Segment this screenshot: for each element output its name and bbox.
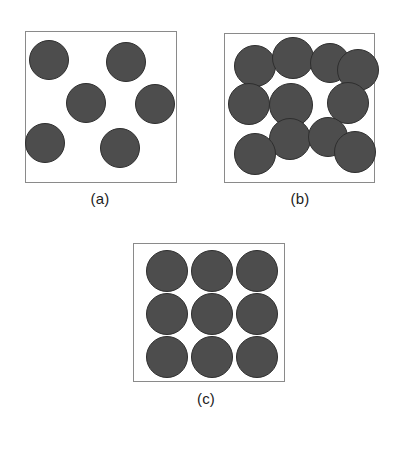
particle-arrangement-figure: (a)(b)(c) (0, 0, 395, 453)
particle (146, 293, 188, 335)
particle (236, 293, 278, 335)
particle (146, 250, 188, 292)
panel-c: (c) (0, 0, 395, 453)
panel-c-caption: (c) (176, 390, 236, 407)
particle (191, 250, 233, 292)
particle (191, 336, 233, 378)
particle (236, 250, 278, 292)
particle (191, 293, 233, 335)
particle (146, 336, 188, 378)
particle (236, 336, 278, 378)
